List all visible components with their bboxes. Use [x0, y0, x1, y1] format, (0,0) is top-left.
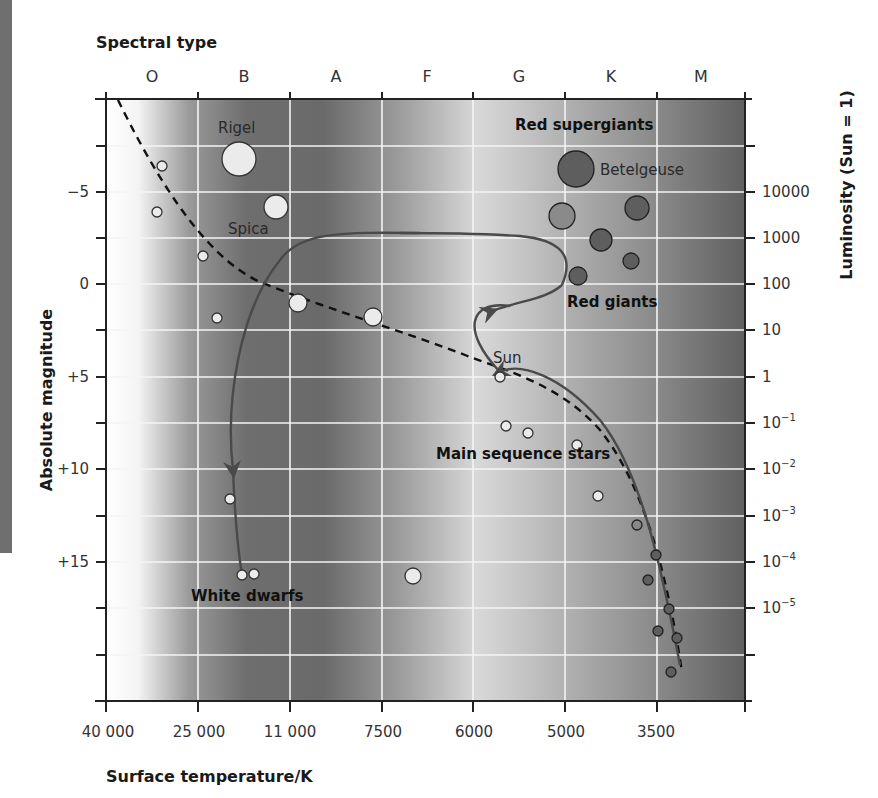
star-sun: [495, 372, 505, 382]
label-main-sequence: Main sequence stars: [436, 445, 610, 463]
svg-text:+15: +15: [57, 553, 89, 571]
svg-text:10−4: 10−4: [762, 551, 796, 571]
x-axis-title: Surface temperature/K: [106, 767, 313, 786]
star-spica: [264, 195, 288, 219]
y-right-tick-labels: 10000 1000 100 10 1 10−1 10−2 10−3 10−4 …: [762, 183, 810, 617]
star-betelgeuse: [558, 151, 594, 187]
svg-text:25 000: 25 000: [173, 723, 226, 741]
svg-text:−5: −5: [67, 183, 89, 201]
label-white-dwarfs: White dwarfs: [191, 587, 304, 605]
svg-text:10−2: 10−2: [762, 458, 796, 478]
hr-diagram: Spectral type Surface temperature/K Abso…: [0, 0, 878, 798]
svg-text:10000: 10000: [762, 183, 810, 201]
svg-text:6000: 6000: [455, 723, 493, 741]
svg-text:M: M: [694, 67, 708, 86]
y-left-tick-labels: −5 0 +5 +10 +15: [57, 183, 89, 571]
svg-text:3500: 3500: [637, 723, 675, 741]
label-red-giants: Red giants: [567, 293, 658, 311]
y-left-axis-title: Absolute magnitude: [37, 309, 56, 492]
svg-text:K: K: [606, 67, 617, 86]
label-betelgeuse: Betelgeuse: [600, 161, 684, 179]
svg-text:1000: 1000: [762, 229, 800, 247]
svg-text:1: 1: [762, 368, 772, 386]
svg-text:10: 10: [762, 321, 781, 339]
label-sun: Sun: [493, 349, 522, 367]
svg-text:+10: +10: [57, 460, 89, 478]
svg-text:0: 0: [79, 275, 89, 293]
svg-text:11 000: 11 000: [264, 723, 317, 741]
svg-text:O: O: [146, 67, 159, 86]
x-tick-labels: 40 000 25 000 11 000 7500 6000 5000 3500: [82, 723, 675, 741]
label-spica: Spica: [228, 220, 269, 238]
svg-text:100: 100: [762, 275, 791, 293]
svg-text:7500: 7500: [364, 723, 402, 741]
plot-background: [106, 99, 745, 701]
label-red-supergiants: Red supergiants: [515, 116, 653, 134]
y-right-axis-title: Luminosity (Sun = 1): [837, 90, 856, 279]
svg-text:G: G: [513, 67, 525, 86]
spectral-type-title: Spectral type: [96, 33, 217, 52]
svg-text:10−3: 10−3: [762, 505, 796, 525]
svg-text:F: F: [422, 67, 431, 86]
star-rigel: [222, 142, 256, 176]
svg-text:+5: +5: [67, 368, 89, 386]
svg-text:5000: 5000: [547, 723, 585, 741]
svg-text:10−1: 10−1: [762, 412, 796, 432]
svg-text:40 000: 40 000: [82, 723, 135, 741]
svg-text:A: A: [331, 67, 342, 86]
label-rigel: Rigel: [218, 119, 256, 137]
spectral-labels: O B A F G K M: [146, 67, 708, 86]
svg-text:10−5: 10−5: [762, 597, 796, 617]
svg-text:B: B: [239, 67, 250, 86]
